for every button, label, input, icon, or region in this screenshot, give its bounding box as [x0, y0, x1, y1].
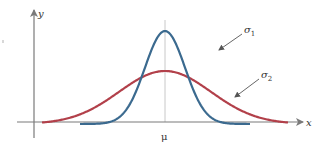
- normal-curves-diagram: y x μ σ1 σ2: [0, 0, 320, 148]
- mean-label: μ: [161, 131, 168, 142]
- sigma2-pointer-arrow: [235, 79, 259, 97]
- sigma1-pointer-arrow: [219, 34, 242, 50]
- x-axis-label: x: [306, 117, 312, 128]
- stray-mark: [2, 40, 4, 43]
- sigma1-label: σ1: [244, 24, 255, 38]
- y-axis-label: y: [37, 8, 44, 19]
- sigma2-label: σ2: [261, 69, 272, 83]
